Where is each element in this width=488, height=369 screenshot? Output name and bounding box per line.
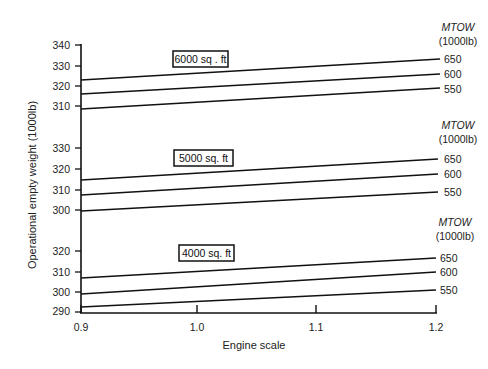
y-tick-label: 300 (52, 286, 70, 298)
x-ticks: 0.9 1.0 1.1 1.2 (74, 305, 444, 333)
x-axis-title: Engine scale (223, 339, 286, 351)
chart-canvas: Operational empty weight (1000lb) 0.9 1.… (0, 0, 488, 369)
y-tick-label: 330 (52, 142, 70, 154)
series-label: 550 (444, 83, 462, 95)
y-axis-title: Operational empty weight (1000lb) (26, 101, 38, 269)
series-label: 550 (444, 186, 462, 198)
series-label: 550 (440, 284, 458, 296)
series-line-550 (81, 290, 436, 307)
x-tick-label: 1.1 (309, 321, 324, 333)
legend-title: MTOW (441, 21, 475, 33)
y-ticks: 340 330 320 310 (52, 39, 81, 112)
series-label: 650 (444, 153, 462, 165)
series-label: 600 (444, 68, 462, 80)
legend-unit: (1000lb) (439, 35, 478, 47)
y-ticks: 330 320 310 300 (52, 142, 81, 216)
y-ticks: 320 310 300 290 (52, 245, 81, 317)
panel-4000: 320 310 300 290 650 600 550 MTOW (1000lb… (52, 216, 474, 317)
x-tick-label: 0.9 (74, 321, 89, 333)
x-tick-label: 1.0 (190, 321, 205, 333)
y-tick-label: 320 (52, 163, 70, 175)
y-tick-label: 310 (52, 184, 70, 196)
y-tick-label: 330 (52, 60, 70, 72)
x-tick-label: 1.2 (429, 321, 444, 333)
y-tick-label: 320 (52, 80, 70, 92)
panel-5000: 330 320 310 300 650 600 550 MTOW (1000lb… (52, 119, 477, 216)
legend-title: MTOW (438, 216, 472, 228)
panel-label: 6000 sq . ft (175, 53, 227, 65)
series-label: 600 (444, 168, 462, 180)
y-tick-label: 320 (52, 245, 70, 257)
series-label: 650 (444, 53, 462, 65)
y-tick-label: 300 (52, 204, 70, 216)
y-tick-label: 290 (52, 305, 70, 317)
y-tick-label: 310 (52, 266, 70, 278)
panel-label: 4000 sq. ft (182, 247, 231, 259)
series-label: 600 (440, 266, 458, 278)
legend-unit: (1000lb) (436, 230, 475, 242)
panel-label: 5000 sq. ft (179, 152, 228, 164)
series-label: 650 (440, 252, 458, 264)
y-tick-label: 310 (52, 100, 70, 112)
series-line-550 (81, 192, 438, 211)
legend-unit: (1000lb) (439, 133, 478, 145)
y-tick-label: 340 (52, 39, 70, 51)
panel-6000: 340 330 320 310 650 600 550 MTOW (1000lb… (52, 21, 477, 112)
legend-title: MTOW (441, 119, 475, 131)
